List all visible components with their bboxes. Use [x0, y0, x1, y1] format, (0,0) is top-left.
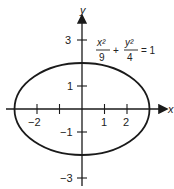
svg-text:9: 9 [99, 52, 105, 63]
y-tick-label-1: 1 [67, 80, 73, 92]
svg-text:4: 4 [127, 52, 133, 63]
y-tick-label-neg3: −3 [60, 172, 73, 184]
y-axis-label: y [79, 4, 87, 16]
x-tick-label-neg2: −2 [28, 116, 41, 128]
y-tick-label-3: 3 [65, 34, 71, 46]
y-tick-label-neg1: −1 [60, 126, 73, 138]
svg-text:x²: x² [96, 37, 106, 48]
x-tick-label-1: 1 [101, 116, 107, 128]
svg-text:= 1: = 1 [141, 45, 156, 56]
x-tick-label-2: 2 [123, 116, 129, 128]
svg-text:+: + [113, 45, 119, 56]
x-axis-label: x [167, 103, 174, 115]
equation-annotation: x² 9 + y² 4 = 1 [96, 37, 156, 63]
plot-area: y x 3 1 −1 −3 −2 1 2 x² 9 + y² 4 = 1 [0, 0, 174, 189]
ellipse-graph: y x 3 1 −1 −3 −2 1 2 x² 9 + y² 4 = 1 [0, 0, 174, 189]
svg-text:y²: y² [124, 37, 134, 48]
